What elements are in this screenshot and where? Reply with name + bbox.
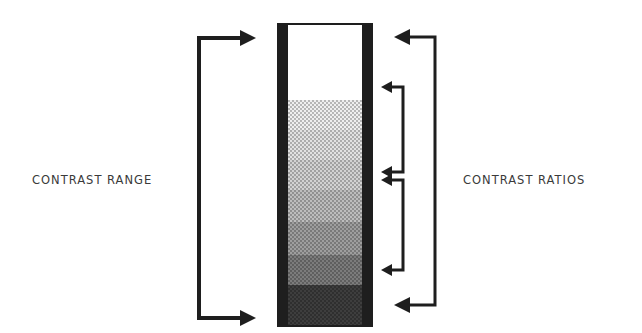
arrow-left-icon <box>381 174 392 186</box>
arrow-left-icon <box>381 264 392 276</box>
gray-band <box>288 25 362 100</box>
halftone-texture <box>288 100 362 130</box>
halftone-texture <box>288 160 362 190</box>
bracket-line <box>404 37 435 305</box>
bracket-line <box>391 87 403 172</box>
arrow-left-icon <box>394 297 410 313</box>
contrast-ratios-label: CONTRAST RATIOS <box>463 173 585 187</box>
arrow-left-icon <box>394 29 410 45</box>
halftone-texture <box>288 285 362 325</box>
contrast-diagram <box>0 0 642 333</box>
contrast-range-label: CONTRAST RANGE <box>32 173 152 187</box>
grayscale-column <box>277 23 373 327</box>
arrow-right-icon <box>240 310 256 326</box>
bracket-line <box>391 180 403 270</box>
halftone-texture <box>288 130 362 160</box>
halftone-texture <box>288 255 362 285</box>
halftone-texture <box>288 222 362 255</box>
bracket-line <box>199 38 246 318</box>
arrow-right-icon <box>240 30 256 46</box>
arrow-left-icon <box>381 81 392 93</box>
halftone-texture <box>288 190 362 222</box>
